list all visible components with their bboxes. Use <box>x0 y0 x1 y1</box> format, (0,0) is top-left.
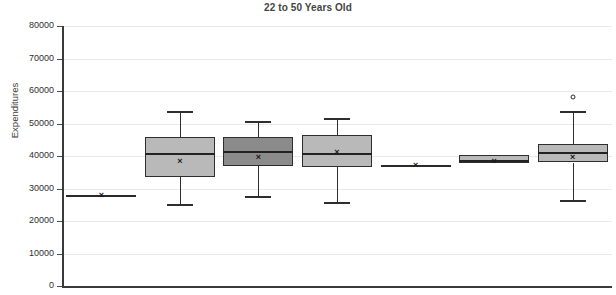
plot-area: 8000070000600005000040000300002000010000… <box>0 0 616 295</box>
median-line <box>538 152 608 154</box>
whisker-upper <box>573 111 574 144</box>
outlier-point <box>570 94 575 99</box>
box-plot-series[interactable]: × <box>0 0 616 295</box>
whisker-cap-lower <box>560 200 586 202</box>
box-plot-chart: 22 to 50 Years Old Expenditures 80000700… <box>0 0 616 295</box>
whisker-lower <box>573 163 574 201</box>
whisker-cap-upper <box>560 111 586 113</box>
